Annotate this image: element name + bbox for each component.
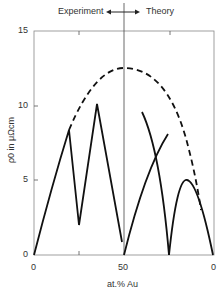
- x-tick-0-right: 0: [211, 262, 216, 272]
- x-tick-50: 50: [118, 262, 128, 272]
- y-tick-15: 15: [18, 25, 28, 35]
- chart-canvas: [0, 0, 222, 293]
- theory-hump-curve: [169, 180, 213, 255]
- y-tick-10: 10: [18, 100, 28, 110]
- header-experiment: Experiment: [58, 6, 104, 16]
- experiment-curve: [34, 104, 122, 255]
- header-theory: Theory: [146, 6, 174, 16]
- x-tick-0-left: 0: [31, 262, 36, 272]
- y-tick-0: 0: [23, 249, 28, 259]
- y-tick-5: 5: [23, 174, 28, 184]
- disordered-dashed-curve: [69, 68, 201, 210]
- x-axis-label: at.% Au: [107, 279, 138, 289]
- theory-falling-curve: [142, 112, 169, 255]
- y-axis-label: ρ0 in μΩcm: [6, 117, 16, 163]
